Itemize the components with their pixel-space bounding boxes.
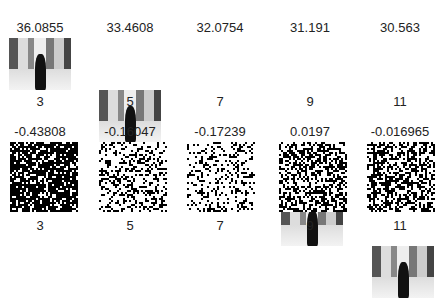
bottom-value-0: -0.43808 (0, 124, 85, 139)
noise-pattern-3 (10, 142, 78, 212)
bottom-label-4: 11 (355, 218, 442, 233)
top-label-4: 11 (355, 94, 442, 109)
photo-thumbnail-3 (9, 38, 71, 90)
bottom-label-3: 9 (265, 218, 355, 233)
bottom-value-3: 0.0197 (265, 124, 355, 139)
top-label-3: 9 (265, 94, 355, 109)
bottom-label-1: 5 (85, 218, 175, 233)
top-value-4: 30.563 (355, 20, 442, 35)
photo-thumbnail-11 (372, 246, 434, 298)
top-label-0: 3 (0, 94, 85, 109)
noise-pattern-11 (367, 142, 435, 212)
bottom-label-2: 7 (175, 218, 265, 233)
bottom-value-1: -0.16047 (85, 124, 175, 139)
bottom-value-2: -0.17239 (175, 124, 265, 139)
bottom-label-0: 3 (0, 218, 85, 233)
top-value-1: 33.4608 (85, 20, 175, 35)
top-value-2: 32.0754 (175, 20, 265, 35)
top-label-2: 7 (175, 94, 265, 109)
noise-pattern-5 (99, 142, 167, 212)
bottom-value-4: -0.016965 (355, 124, 442, 139)
top-label-1: 5 (85, 94, 175, 109)
top-value-3: 31.191 (265, 20, 355, 35)
noise-pattern-7 (187, 142, 255, 212)
top-value-0: 36.0855 (0, 20, 85, 35)
noise-pattern-9 (279, 142, 347, 212)
